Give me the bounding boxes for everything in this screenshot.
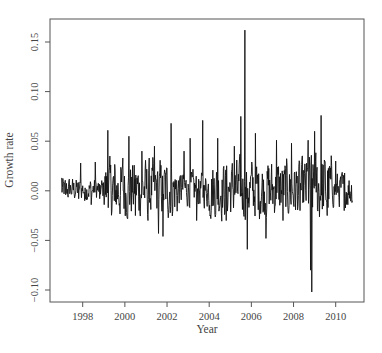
growth-rate-line-chart: −0.10−0.050.000.050.100.15 1998200020022…: [0, 0, 382, 353]
x-tick-label: 2002: [157, 311, 178, 322]
plot-frame: [50, 19, 364, 302]
x-tick-label: 2008: [283, 311, 304, 322]
x-tick-label: 2004: [199, 311, 221, 322]
y-tick-label: −0.10: [29, 278, 40, 302]
y-tick-label: 0.05: [29, 132, 40, 150]
x-tick-label: 2006: [241, 311, 262, 322]
x-tick-label: 2000: [114, 311, 135, 322]
growth-rate-series-line: [62, 30, 353, 292]
y-tick-label: 0.00: [29, 182, 40, 200]
y-tick-label: 0.10: [29, 82, 40, 100]
y-tick-label: −0.05: [29, 228, 40, 252]
x-axis: 1998200020022004200620082010: [72, 302, 346, 322]
y-axis: −0.10−0.050.000.050.100.15: [29, 33, 50, 302]
x-tick-label: 2010: [325, 311, 346, 322]
x-axis-label: Year: [196, 323, 217, 335]
y-tick-label: 0.15: [29, 33, 40, 51]
y-axis-label: Growth rate: [3, 132, 15, 187]
x-tick-label: 1998: [72, 311, 93, 322]
